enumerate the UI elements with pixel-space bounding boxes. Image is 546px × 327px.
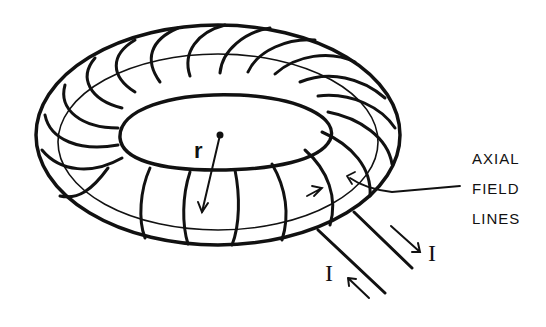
radius-label: r [194, 138, 203, 164]
current-arrows [348, 226, 420, 298]
field-label: FIELD [472, 174, 520, 204]
toroid-diagram [0, 0, 546, 327]
current-in-label: I [325, 260, 333, 287]
lines-label: LINES [472, 204, 520, 234]
torus-inner-hole [120, 95, 332, 170]
current-out-label: I [428, 240, 436, 267]
axial-label: AXIAL [472, 144, 520, 174]
